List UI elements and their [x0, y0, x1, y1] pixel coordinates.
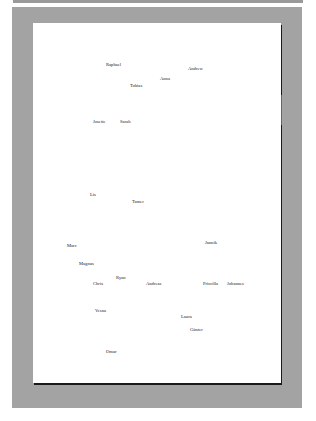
name-label: Marc [67, 244, 77, 249]
paper-page [33, 23, 281, 383]
name-label: Omar [106, 350, 116, 355]
name-label: Ryan [116, 276, 126, 281]
name-label: Josette [93, 120, 106, 125]
name-label: Vesna [95, 309, 106, 314]
name-label: Jannik [205, 241, 217, 246]
name-label: Andreas [146, 282, 161, 287]
name-label: Tamer [132, 200, 144, 205]
name-label: Günter [190, 328, 203, 333]
name-label: Raphael [106, 63, 121, 68]
name-label: Andrew [188, 67, 203, 72]
name-label: Chris [93, 282, 103, 287]
top-strip [13, 0, 303, 3]
page-edge-mark [281, 95, 282, 125]
name-label: Laura [181, 315, 192, 320]
name-label: Lis [90, 193, 96, 198]
name-label: Sarah [120, 120, 130, 125]
name-label: Anna [160, 77, 170, 82]
name-label: Magnus [79, 262, 94, 267]
name-label: Johannes [227, 282, 244, 287]
name-label: Tobias [130, 84, 142, 89]
name-label: Priscilla [203, 282, 218, 287]
